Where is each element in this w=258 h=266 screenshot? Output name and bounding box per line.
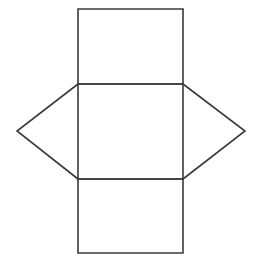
right-triangle-face: [183, 84, 245, 179]
left-triangle-face: [17, 84, 78, 179]
top-rectangle-face: [78, 9, 183, 84]
middle-rectangle-face: [78, 84, 183, 179]
bottom-rectangle-face: [78, 179, 183, 253]
triangular-prism-net: [0, 0, 258, 266]
